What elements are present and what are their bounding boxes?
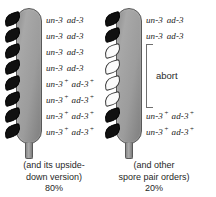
caption-right-line1: (and other: [133, 160, 174, 170]
caption-left-line1: (and its upside-: [23, 160, 85, 170]
caption-left-line2: down version): [26, 172, 82, 182]
caption-left: (and its upside- down version) 80%: [0, 160, 108, 195]
ascus-stalk-right: [125, 143, 133, 159]
caption-right-line2: spore pair orders): [118, 172, 189, 182]
genotype-label-left-1: un-3 ad-3: [46, 13, 85, 25]
abort-label: abort: [156, 70, 178, 81]
genotype-label-left-8: un-3+ ad-3+: [46, 125, 95, 137]
caption-left-percent: 80%: [0, 183, 108, 195]
ascus-stalk-left: [25, 143, 33, 159]
genotype-label-left-6: un-3+ ad-3+: [46, 93, 95, 105]
genotype-label-left-5: un-3+ ad-3+: [46, 77, 95, 89]
ascus-body-left: [16, 8, 42, 144]
genotype-label-left-3: un-3 ad-3: [46, 45, 85, 57]
genotype-label-right-2: un-3 ad-3: [146, 29, 185, 41]
ascus-body-right: [116, 8, 142, 144]
genotype-label-right-1: un-3 ad-3: [146, 13, 185, 25]
genotype-label-left-4: un-3 ad-3: [46, 61, 85, 73]
figure-canvas: un-3 ad-3 un-3 ad-3 un-3 ad-3 un-3 ad-3 …: [0, 0, 216, 197]
caption-right: (and other spore pair orders) 20%: [96, 160, 212, 195]
genotype-label-right-8: un-3+ ad-3+: [146, 125, 195, 137]
genotype-label-left-7: un-3+ ad-3+: [46, 109, 95, 121]
caption-right-percent: 20%: [96, 183, 212, 195]
genotype-label-left-2: un-3 ad-3: [46, 29, 85, 41]
abort-bracket: [146, 44, 153, 108]
genotype-label-right-7: un-3+ ad-3+: [146, 109, 195, 121]
